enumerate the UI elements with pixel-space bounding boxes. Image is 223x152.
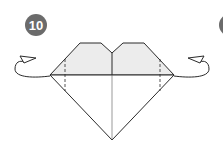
fold-behind-arrow-icon (15, 56, 50, 77)
next-step-badge (219, 14, 223, 36)
step-badge: 10 (25, 14, 47, 36)
fold-behind-arrow-icon (174, 56, 209, 77)
step-number: 10 (29, 18, 43, 33)
origami-diagram: 10 (0, 0, 223, 152)
